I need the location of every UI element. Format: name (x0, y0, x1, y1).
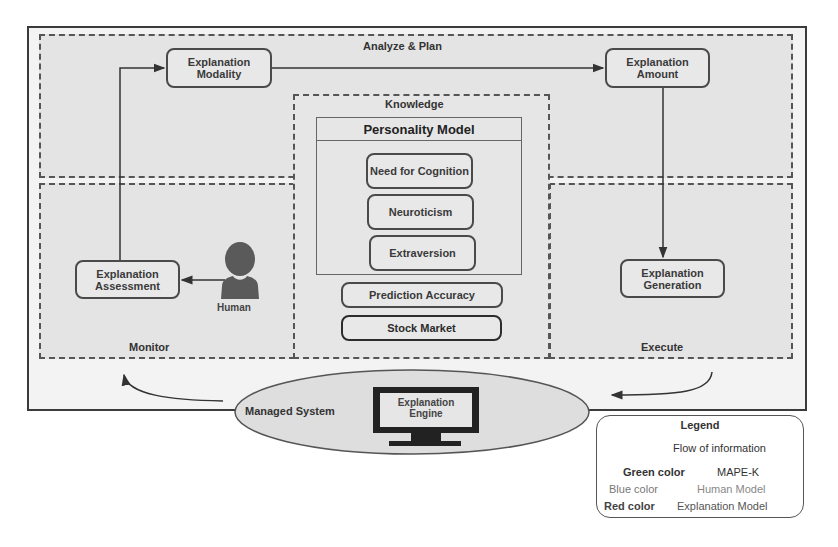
arrow-assessment-to-modality (120, 68, 164, 260)
legend-green-value: MAPE-K (717, 466, 759, 478)
legend-flow-label: Flow of information (673, 442, 766, 454)
legend-blue-key: Blue color (609, 483, 658, 495)
legend-green-key: Green color (623, 466, 685, 478)
managed-system-label: Managed System (245, 405, 335, 417)
legend-red-value: Explanation Model (677, 500, 768, 512)
person-icon (221, 242, 259, 299)
arrow-system-to-monitor (124, 375, 223, 401)
legend-red-key: Red color (604, 500, 655, 512)
legend-title: Legend (597, 419, 803, 431)
arrow-execute-to-system (612, 372, 712, 395)
human-label: Human (217, 302, 251, 313)
explanation-engine-label: Explanation Engine (388, 397, 464, 419)
legend-box: Legend Flow of information Green color M… (596, 415, 804, 518)
legend-blue-value: Human Model (697, 483, 765, 495)
